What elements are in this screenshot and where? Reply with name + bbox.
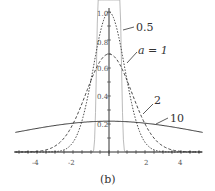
x-tick-label: -2 xyxy=(68,159,75,167)
label-2: 2 xyxy=(154,94,161,107)
caption: (b) xyxy=(100,173,116,186)
label-0.5: 0.5 xyxy=(136,21,154,34)
y-tick-label: 1.0 xyxy=(97,10,108,18)
y-tick-label: 0.2 xyxy=(97,121,108,129)
x-tick-label: 2 xyxy=(144,159,148,167)
chart: -4 -2 2 4 0.2 0.4 0.6 0.8 1.0 0.5 a = 1 … xyxy=(0,0,215,191)
y-tick-label: 0.6 xyxy=(97,65,109,73)
y-tick-label: 0.8 xyxy=(97,39,108,47)
label-a1: a = 1 xyxy=(138,44,168,57)
plot-area: -4 -2 2 4 0.2 0.4 0.6 0.8 1.0 0.5 a = 1 … xyxy=(0,0,215,191)
x-tick-label: -4 xyxy=(32,159,39,167)
x-tick-label: 4 xyxy=(178,159,183,167)
label-10: 10 xyxy=(170,112,184,125)
y-tick-label: 0.4 xyxy=(97,93,109,101)
